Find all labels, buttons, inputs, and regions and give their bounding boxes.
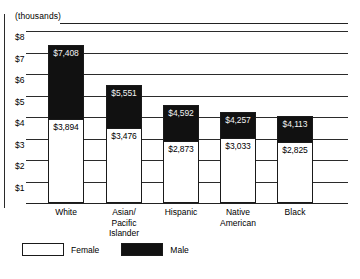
legend-item-female[interactable]: Female [22, 243, 121, 256]
chart-figure: (thousands) $8$7$6$5$4$3$2$1 $7,408$3,89… [0, 0, 360, 279]
bar-segment-male[interactable]: $7,408 [48, 45, 84, 121]
bar-value-label-female: $3,894 [53, 120, 78, 132]
bar-group[interactable]: $4,113$2,825 [277, 117, 313, 203]
legend-label-female: Female [71, 245, 99, 255]
bar-segment-male[interactable]: $4,257 [220, 112, 256, 138]
bar-segment-female[interactable]: $2,873 [163, 141, 199, 203]
bar-value-label-male: $4,113 [283, 117, 308, 129]
legend-label-male: Male [170, 245, 188, 255]
bar-value-label-female: $3,476 [111, 129, 136, 141]
x-category-label: Native American [208, 207, 268, 228]
plot-top-border [60, 23, 348, 24]
y-tick-label: $4 [15, 119, 24, 128]
bar-value-label-male: $4,257 [225, 113, 250, 125]
bar-segment-male[interactable]: $5,551 [106, 85, 142, 130]
x-category-label: Asian/ Pacific Islander [94, 207, 154, 239]
x-category-label: Black [265, 207, 325, 218]
y-tick-label: $7 [15, 55, 24, 64]
y-tick-label: $6 [15, 76, 24, 85]
x-category-label: Hispanic [151, 207, 211, 218]
bar-value-label-female: $2,873 [168, 142, 193, 154]
bar-segment-male[interactable]: $4,592 [163, 105, 199, 142]
y-tick-label: $2 [15, 162, 24, 171]
y-tick-label: $8 [15, 33, 24, 42]
bar-segment-female[interactable]: $3,033 [220, 138, 256, 203]
y-tick-label: $5 [15, 98, 24, 107]
bar-group[interactable]: $5,551$3,476 [106, 86, 142, 203]
x-category-label: White [36, 207, 96, 218]
plot-baseline [26, 203, 348, 204]
bar-value-label-male: $7,408 [53, 46, 78, 58]
chart-legend: Female Male [22, 243, 211, 256]
bar-group[interactable]: $4,592$2,873 [163, 106, 199, 203]
legend-item-male[interactable]: Male [121, 243, 210, 256]
bar-group[interactable]: $4,257$3,033 [220, 113, 256, 203]
bar-segment-female[interactable]: $2,825 [277, 142, 313, 203]
bar-value-label-male: $4,592 [168, 106, 193, 118]
legend-swatch-male-icon [121, 243, 163, 256]
bar-value-label-female: $2,825 [282, 143, 307, 155]
legend-swatch-female-icon [22, 243, 64, 256]
bar-value-label-female: $3,033 [225, 139, 250, 151]
bar-segment-female[interactable]: $3,894 [48, 119, 84, 203]
y-tick-label: $1 [15, 184, 24, 193]
bar-segment-male[interactable]: $4,113 [277, 116, 313, 144]
bar-value-label-male: $5,551 [111, 86, 136, 98]
bar-segment-female[interactable]: $3,476 [106, 128, 142, 203]
y-tick-label: $3 [15, 141, 24, 150]
plot-left-border [4, 14, 5, 208]
axis-unit-caption: (thousands) [15, 11, 61, 21]
gridline [26, 31, 348, 32]
bar-group[interactable]: $7,408$3,894 [48, 46, 84, 203]
